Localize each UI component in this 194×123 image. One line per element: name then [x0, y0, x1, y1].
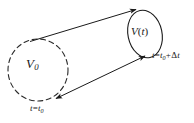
final-volume-label: V(t): [131, 26, 148, 37]
bottom-streamline-arrow: [56, 56, 145, 99]
initial-time-label: t=t0: [30, 104, 44, 114]
initial-volume-label: V0: [26, 57, 39, 72]
final-volume-symbol: V: [131, 25, 138, 37]
top-streamline-arrow: [30, 10, 136, 42]
right-paren: ): [144, 25, 148, 37]
initial-time-value-subscript: 0: [41, 108, 44, 114]
initial-volume-symbol: V: [26, 56, 34, 71]
final-time-label: t=t0+Δt: [152, 51, 180, 61]
figure-container: V0 V(t) t=t0 t=t0+Δt: [0, 0, 194, 123]
final-time-delta-variable: t: [177, 50, 180, 60]
initial-volume-subscript: 0: [34, 62, 38, 72]
